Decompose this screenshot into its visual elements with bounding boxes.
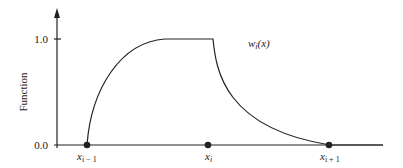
node-label-x-i: xi bbox=[204, 150, 212, 164]
node-x-i bbox=[205, 142, 212, 149]
y-axis-label: Function bbox=[17, 72, 29, 112]
node-x-i-minus-1 bbox=[84, 142, 91, 149]
curve-w-i bbox=[87, 39, 383, 145]
node-x-i-plus-1 bbox=[326, 142, 333, 149]
y-tick-label-0: 0.0 bbox=[34, 139, 48, 151]
node-label-x-i-plus-1: xi + 1 bbox=[319, 150, 340, 164]
node-label-x-i-minus-1: xi − 1 bbox=[76, 150, 97, 164]
curve-label: wi(x) bbox=[248, 37, 270, 51]
y-axis-arrow-icon bbox=[54, 8, 60, 18]
chart: 1.0 0.0 Function xi − 1 xi xi + 1 wi(x) bbox=[0, 0, 403, 168]
y-tick-label-1: 1.0 bbox=[34, 33, 48, 45]
